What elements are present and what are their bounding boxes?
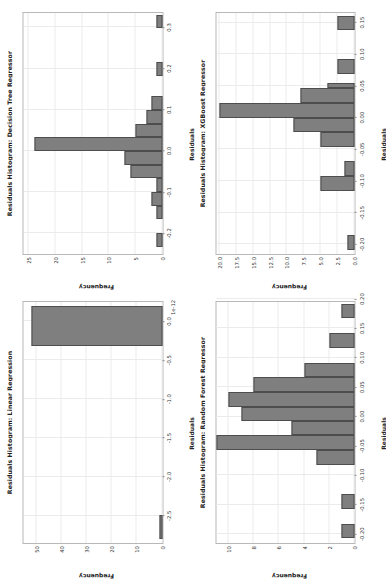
y-tick-label: 0.0 — [351, 257, 357, 265]
x-tick-label: -2.0 — [162, 472, 172, 482]
x-tick-label: 0.2 — [162, 64, 172, 72]
panel-linear-regression: Residuals Histogram: Linear Regression -… — [0, 289, 193, 578]
plot-area-xgboost: -0.20-0.15-0.10-0.050.000.050.100.15 0.0… — [215, 12, 356, 255]
x-tick-label: -0.2 — [162, 228, 172, 238]
panel-title-decision-tree: Residuals Histogram: Decision Tree Regre… — [5, 12, 12, 255]
histogram-bar — [124, 151, 161, 165]
x-tick-label: -0.5 — [162, 355, 172, 365]
histogram-bar — [341, 304, 354, 319]
y-axis-ticks: 0246810 — [216, 543, 355, 573]
histogram-bar — [156, 233, 161, 247]
x-tick-label: 0.05 — [354, 381, 364, 393]
x-tick-label: -0.15 — [354, 206, 364, 220]
y-tick-label: 2 — [326, 546, 332, 549]
histogram-bar — [156, 62, 161, 76]
histogram-bar — [216, 435, 355, 450]
y-axis-label-random-forest: Frequency — [271, 573, 306, 580]
x-axis-label-random-forest: Residuals — [379, 289, 386, 578]
histogram-bar — [320, 176, 354, 191]
x-tick-label: -0.15 — [354, 498, 364, 512]
x-axis-ticks: -0.2-0.10.00.10.20.3 — [162, 13, 190, 254]
y-tick-label: 17.5 — [233, 257, 239, 269]
histogram-bar — [156, 15, 161, 29]
panel-decision-tree: Residuals Histogram: Decision Tree Regre… — [0, 0, 193, 289]
histogram-bar — [146, 110, 162, 124]
y-tick-label: 10 — [225, 546, 231, 553]
plot-area-decision-tree: -0.2-0.10.00.10.20.3 0510152025 — [22, 12, 163, 255]
histogram-bar — [219, 103, 354, 118]
histogram-bar — [130, 165, 162, 179]
y-axis-label-linear-regression: Frequency — [79, 573, 114, 580]
x-tick-label: 0.05 — [354, 80, 364, 92]
histogram-bar — [34, 137, 162, 151]
histogram-bar — [304, 363, 354, 378]
y-tick-label: 10 — [105, 257, 111, 264]
y-axis-label-xgboost: Frequency — [271, 284, 306, 291]
histogram-bar — [156, 206, 161, 220]
y-tick-label: 10.0 — [283, 257, 289, 269]
y-tick-label: 20 — [108, 546, 114, 553]
plot-area-linear-regression: -2.5-2.0-1.5-1.0-0.50.0 01020304050 1e-1… — [22, 301, 163, 544]
x-tick-label: 0.10 — [354, 352, 364, 364]
x-tick-label: 0.20 — [354, 293, 364, 305]
x-tick-label: 0.00 — [354, 411, 364, 423]
histogram-bar — [31, 306, 162, 346]
histogram-bar — [241, 407, 354, 422]
panel-title-random-forest: Residuals Histogram: Random Forest Regre… — [198, 301, 205, 544]
bar-series — [23, 13, 162, 254]
histogram-bar — [320, 132, 354, 147]
y-tick-label: 50 — [33, 546, 39, 553]
histogram-bar — [344, 161, 354, 176]
y-tick-label: 7.5 — [300, 257, 306, 265]
histogram-bar — [253, 377, 354, 392]
panel-title-linear-regression: Residuals Histogram: Linear Regression — [5, 301, 12, 544]
x-axis-ticks: -2.5-2.0-1.5-1.0-0.50.0 — [162, 302, 190, 543]
panel-title-xgboost: Residuals Histogram: XGBoost Regressor — [198, 12, 205, 255]
histogram-bar — [151, 192, 162, 206]
x-tick-label: -1.0 — [162, 394, 172, 404]
y-tick-label: 0 — [159, 546, 165, 549]
histogram-bar — [300, 88, 354, 103]
x-tick-label: -0.1 — [162, 187, 172, 197]
histogram-bar — [316, 450, 354, 465]
y-tick-label: 25 — [25, 257, 31, 264]
y-tick-label: 15.0 — [250, 257, 256, 269]
histogram-bar — [135, 124, 162, 138]
y-tick-label: 0 — [351, 546, 357, 549]
panel-random-forest: Residuals Histogram: Random Forest Regre… — [193, 289, 386, 578]
plot-area-random-forest: -0.20-0.15-0.10-0.050.000.050.100.150.20… — [215, 301, 356, 544]
x-tick-label: 0.10 — [354, 48, 364, 60]
bar-series — [23, 302, 162, 543]
x-tick-label: 0.15 — [354, 323, 364, 335]
x-tick-label: 0.00 — [354, 112, 364, 124]
bar-series — [216, 13, 355, 254]
y-tick-label: 8 — [250, 546, 256, 549]
histogram-bar — [337, 16, 354, 31]
histogram-bar — [329, 333, 354, 348]
x-tick-label: 0.3 — [162, 23, 172, 31]
x-tick-label: -0.05 — [354, 439, 364, 453]
histogram-bar — [151, 96, 162, 110]
y-axis-label-decision-tree: Frequency — [79, 284, 114, 291]
y-tick-label: 10 — [133, 546, 139, 553]
x-tick-label: -2.5 — [162, 511, 172, 521]
y-tick-label: 6 — [275, 546, 281, 549]
x-tick-label: -0.10 — [354, 469, 364, 483]
y-tick-label: 2.5 — [334, 257, 340, 265]
histogram-bar — [337, 59, 354, 74]
x-tick-label: -0.05 — [354, 143, 364, 157]
y-axis-ticks: 0.02.55.07.510.012.515.017.520.0 — [216, 254, 355, 284]
y-tick-label: 15 — [79, 257, 85, 264]
histogram-bar — [327, 83, 354, 89]
histogram-bar — [228, 392, 354, 407]
y-tick-label: 0 — [159, 257, 165, 260]
histogram-bar — [341, 494, 354, 509]
gridline-vertical — [216, 298, 355, 299]
y-tick-label: 12.5 — [267, 257, 273, 269]
x-axis-ticks: -0.20-0.15-0.10-0.050.000.050.100.150.20 — [354, 302, 382, 543]
y-tick-label: 30 — [83, 546, 89, 553]
x-tick-label: 0.0 — [162, 147, 172, 155]
x-tick-label: -0.10 — [354, 174, 364, 188]
